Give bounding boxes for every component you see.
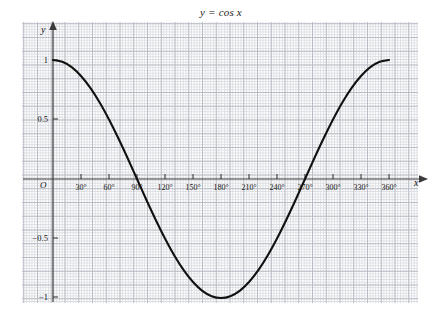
x-axis xyxy=(23,175,428,183)
y-axis-label: y xyxy=(41,24,45,35)
cosine-graph-figure: y = cos x xyxy=(0,0,442,312)
y-axis xyxy=(49,21,57,302)
x-axis-label: x xyxy=(414,177,418,188)
plot-area xyxy=(0,0,442,312)
y-tick-label: −1 xyxy=(22,292,48,302)
x-tick-label: 330° xyxy=(346,183,376,192)
x-tick-label: 180° xyxy=(206,183,236,192)
x-tick-label: 270° xyxy=(290,183,320,192)
origin-label: O xyxy=(40,180,47,190)
x-tick-label: 360° xyxy=(374,183,404,192)
x-tick-label: 30° xyxy=(66,183,96,192)
x-tick-label: 210° xyxy=(234,183,264,192)
x-tick-label: 300° xyxy=(318,183,348,192)
x-tick-label: 240° xyxy=(262,183,292,192)
x-axis-ticks xyxy=(81,174,389,179)
y-tick-label: 0.5 xyxy=(22,114,48,124)
x-tick-label: 60° xyxy=(94,183,124,192)
y-tick-label: 1 xyxy=(22,55,48,65)
y-tick-label: −0.5 xyxy=(22,233,48,243)
x-tick-label: 150° xyxy=(178,183,208,192)
x-tick-label: 90° xyxy=(122,183,152,192)
x-tick-label: 120° xyxy=(150,183,180,192)
